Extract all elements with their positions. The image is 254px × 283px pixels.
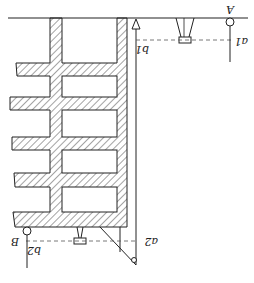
weight-icon [132,258,137,263]
room [62,110,117,137]
leveling-diagram: A a1 b1 B b2 a2 [0,0,254,283]
level-instrument-top [176,18,194,43]
level-instrument-bottom [74,227,86,244]
label-a: A [226,3,235,16]
label-b2: b2 [27,244,41,257]
label-b: B [11,235,20,248]
room [62,150,117,173]
room [62,187,117,212]
label-a1: a1 [234,35,248,48]
room [62,76,117,97]
label-b1: b1 [135,43,149,56]
arrow-up-icon [132,19,140,29]
building-section [10,18,127,227]
label-a2: a2 [144,235,158,248]
